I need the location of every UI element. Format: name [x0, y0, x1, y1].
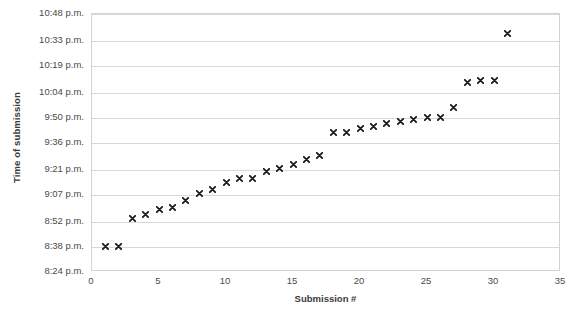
- gridline: [92, 195, 559, 196]
- data-point: [383, 120, 390, 127]
- data-point: [276, 165, 283, 172]
- gridline: [92, 66, 559, 67]
- y-axis-tick-labels: 10:48 p.m.10:33 p.m.10:19 p.m.10:04 p.m.…: [20, 0, 84, 317]
- gridline: [92, 222, 559, 223]
- gridline: [92, 170, 559, 171]
- x-tick-label: 0: [76, 275, 106, 286]
- data-point: [102, 243, 109, 250]
- y-tick-label: 9:50 p.m.: [22, 112, 84, 122]
- data-point: [169, 204, 176, 211]
- data-point: [129, 215, 136, 222]
- x-tick-label: 20: [344, 275, 374, 286]
- y-tick-label: 9:36 p.m.: [22, 137, 84, 147]
- data-point: [504, 30, 511, 37]
- data-point: [290, 161, 297, 168]
- data-point: [330, 129, 337, 136]
- gridline: [92, 247, 559, 248]
- data-point: [464, 79, 471, 86]
- data-point: [357, 125, 364, 132]
- data-point: [196, 190, 203, 197]
- data-point: [370, 123, 377, 130]
- y-tick-label: 10:48 p.m.: [22, 8, 84, 18]
- data-point: [223, 179, 230, 186]
- data-point: [397, 118, 404, 125]
- y-tick-label: 9:21 p.m.: [22, 164, 84, 174]
- data-point: [209, 186, 216, 193]
- y-tick-label: 10:19 p.m.: [22, 60, 84, 70]
- y-tick-label: 8:52 p.m.: [22, 216, 84, 226]
- data-point: [249, 175, 256, 182]
- x-axis-tick-labels: 05101520253035: [0, 275, 566, 289]
- y-tick-label: 8:38 p.m.: [22, 241, 84, 251]
- data-point: [410, 116, 417, 123]
- data-point: [437, 114, 444, 121]
- plot-area: [91, 13, 560, 271]
- x-tick-label: 35: [545, 275, 566, 286]
- y-tick-label: 9:07 p.m.: [22, 189, 84, 199]
- x-axis-title: Submission #: [91, 293, 560, 304]
- gridline: [92, 41, 559, 42]
- data-point: [236, 175, 243, 182]
- data-point: [343, 129, 350, 136]
- gridline: [92, 143, 559, 144]
- data-point: [491, 77, 498, 84]
- x-tick-label: 15: [277, 275, 307, 286]
- data-point: [115, 243, 122, 250]
- data-point: [156, 206, 163, 213]
- data-point: [424, 114, 431, 121]
- data-point: [477, 77, 484, 84]
- scatter-chart: Time of submission 10:48 p.m.10:33 p.m.1…: [0, 0, 566, 317]
- data-point: [263, 168, 270, 175]
- data-point: [303, 156, 310, 163]
- x-tick-label: 30: [478, 275, 508, 286]
- data-point: [142, 211, 149, 218]
- y-tick-label: 10:04 p.m.: [22, 87, 84, 97]
- x-tick-label: 10: [210, 275, 240, 286]
- data-point: [182, 197, 189, 204]
- gridline: [92, 93, 559, 94]
- x-tick-label: 25: [411, 275, 441, 286]
- data-point: [450, 104, 457, 111]
- gridline: [92, 118, 559, 119]
- gridline: [92, 14, 559, 15]
- x-tick-label: 5: [143, 275, 173, 286]
- y-tick-label: 10:33 p.m.: [22, 35, 84, 45]
- data-point: [316, 152, 323, 159]
